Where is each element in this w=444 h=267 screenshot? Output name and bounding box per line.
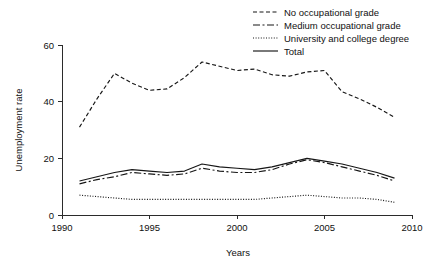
x-tick-label: 1990: [51, 222, 72, 233]
unemployment-rate-chart: No occupational grade Medium occupationa…: [0, 0, 444, 267]
x-tick-label: 2005: [314, 222, 335, 233]
y-tick-label: 40: [43, 96, 54, 107]
x-axis-title: Years: [226, 247, 250, 258]
y-axis-title: Unemployment rate: [13, 89, 24, 172]
y-tick-label: 20: [43, 153, 54, 164]
legend-label-university-and-college-degree: University and college degree: [284, 33, 409, 44]
legend-label-total: Total: [284, 46, 304, 57]
x-tick-label: 1995: [139, 222, 160, 233]
legend-label-medium-occupational-grade: Medium occupational grade: [284, 20, 401, 31]
legend-label-no-occupational-grade: No occupational grade: [284, 7, 379, 18]
y-tick-label: 60: [43, 40, 54, 51]
x-tick-label: 2000: [226, 222, 247, 233]
x-tick-label: 2010: [401, 222, 422, 233]
y-tick-label: 0: [49, 210, 54, 221]
